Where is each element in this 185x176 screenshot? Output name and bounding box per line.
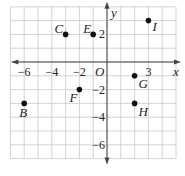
point-label: C: [55, 21, 64, 36]
point-C: C: [55, 21, 69, 37]
x-tick-label: −6: [18, 65, 31, 79]
x-tick-label: −4: [45, 65, 58, 79]
point-label: H: [138, 104, 149, 119]
y-tick-label: −4: [92, 110, 105, 124]
point-dot-icon: [63, 32, 69, 38]
point-dot-icon: [77, 87, 83, 93]
point-dot-icon: [146, 18, 152, 24]
point-E: E: [82, 21, 96, 37]
y-tick-label: −6: [92, 138, 105, 152]
point-label: E: [82, 21, 91, 36]
plotted-points: BCEFGHI: [19, 18, 157, 121]
y-axis-label: y: [109, 5, 117, 20]
coordinate-plane: x y O −6−4−232−2−4−6 BCEFGHI: [0, 0, 185, 176]
point-label: G: [139, 76, 149, 91]
point-dot-icon: [132, 73, 138, 79]
point-dot-icon: [132, 101, 138, 107]
y-tick-label: 2: [99, 27, 105, 41]
point-label: F: [68, 90, 78, 105]
point-I: I: [146, 18, 158, 34]
x-axis-arrow-left-icon: [11, 60, 18, 65]
y-axis-arrow-up-icon: [105, 2, 110, 9]
origin-label: O: [95, 64, 105, 79]
y-tick-label: −2: [92, 83, 105, 97]
point-F: F: [68, 87, 82, 105]
point-label: B: [19, 105, 27, 120]
point-dot-icon: [90, 32, 96, 38]
point-label: I: [151, 19, 157, 34]
y-axis-arrow-down-icon: [105, 158, 110, 165]
x-axis-label: x: [172, 64, 179, 79]
x-tick-label: −2: [73, 65, 86, 79]
